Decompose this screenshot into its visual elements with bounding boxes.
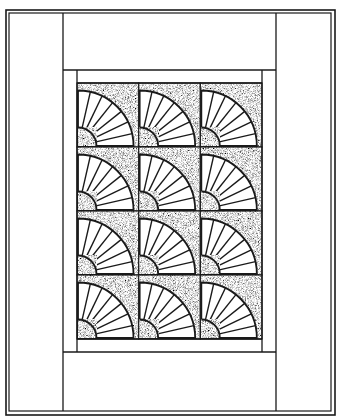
fan-block-grid [77,83,262,339]
fan-block [200,211,262,275]
quilt-drawing [0,0,344,419]
fan-block [77,211,139,275]
fan-block [139,147,201,211]
fan-block [200,275,262,339]
fan-block [139,275,201,339]
fan-block [77,147,139,211]
fan-block [77,83,139,147]
fan-block [77,275,139,339]
fan-block [139,83,201,147]
fan-block [200,147,262,211]
fan-block [200,83,262,147]
fan-block [139,211,201,275]
